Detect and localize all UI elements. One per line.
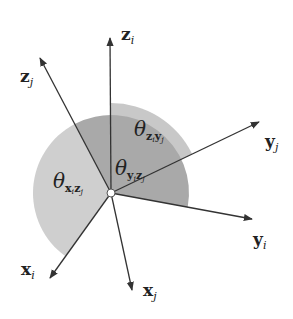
axis-label-yj: yj [264,131,279,154]
axis-label-zj: zj [20,66,34,89]
origin-point [107,189,115,197]
axis-label-zi: zi [121,24,134,47]
axis-xj-arrow [111,193,132,290]
axis-label-yi: yi [252,229,266,252]
axis-label-xi: xi [21,259,35,282]
frame-diagram: zi zj yj yi xi xj θxizj θyizj θziyj [0,0,293,319]
axis-label-xj: xj [143,280,157,303]
